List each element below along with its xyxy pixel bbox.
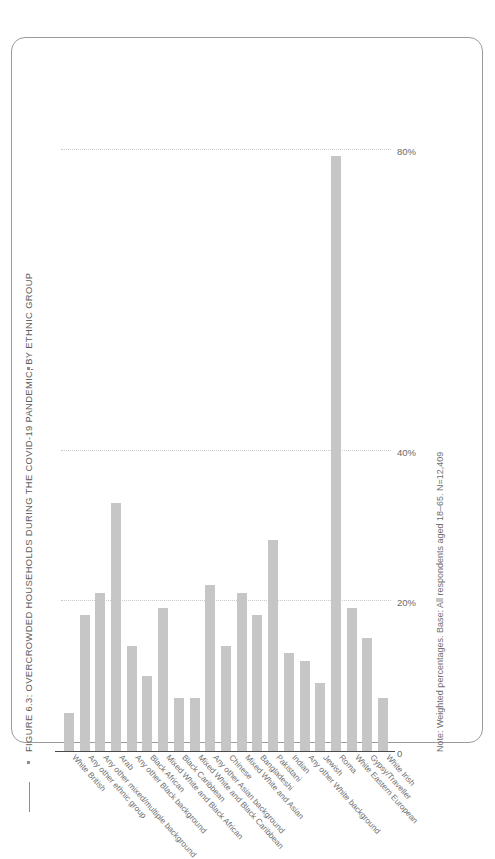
x-tick-0: 0 xyxy=(397,748,402,759)
bar xyxy=(347,608,357,751)
bar xyxy=(362,638,372,751)
bar xyxy=(300,661,310,751)
figure-card: FIGURE 6.3: OVERCROWDED HOUSEHOLDS DURIN… xyxy=(11,37,483,743)
bar xyxy=(80,615,90,751)
bar xyxy=(142,676,152,751)
bar xyxy=(315,683,325,751)
rotated-chart-stage: FIGURE 6.3: OVERCROWDED HOUSEHOLDS DURIN… xyxy=(17,78,477,778)
bar xyxy=(111,503,121,751)
x-tick-20%: 20% xyxy=(397,597,416,608)
zero-axis-line xyxy=(55,751,395,752)
title-bullet-left-icon xyxy=(27,762,30,765)
figure-note: Note: Weighted percentages. Base: All re… xyxy=(435,452,445,752)
bar xyxy=(252,615,262,751)
bar xyxy=(205,585,215,751)
bar xyxy=(268,540,278,751)
bar xyxy=(158,608,168,751)
bar xyxy=(174,698,184,751)
bar xyxy=(95,593,105,751)
x-tick-40%: 40% xyxy=(397,447,416,458)
gridline-40% xyxy=(61,450,391,451)
title-rule xyxy=(29,782,30,812)
bar xyxy=(237,593,247,751)
gridline-80% xyxy=(61,149,391,150)
bar xyxy=(127,646,137,751)
bar xyxy=(190,698,200,751)
bar xyxy=(64,713,74,751)
x-tick-80%: 80% xyxy=(397,146,416,157)
plot-area: 020%40%80%White BritishAny other ethnic … xyxy=(61,112,391,752)
bar xyxy=(221,646,231,751)
bar xyxy=(284,653,294,751)
bar xyxy=(331,156,341,751)
bar xyxy=(378,698,388,751)
figure-title: FIGURE 6.3: OVERCROWDED HOUSEHOLDS DURIN… xyxy=(23,273,34,752)
